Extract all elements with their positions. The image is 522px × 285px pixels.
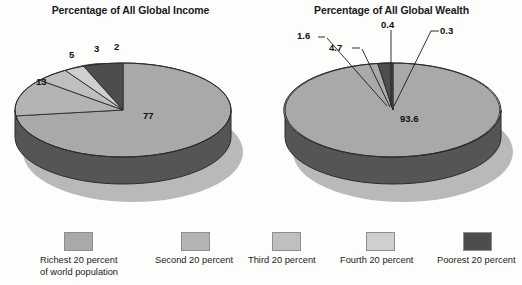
legend: Richest 20 percent of world population S… (0, 226, 522, 285)
legend-swatch-richest (64, 232, 93, 251)
pie-value-wealth-richest: 93.6 (400, 114, 419, 124)
legend-item-richest: Richest 20 percent of world population (40, 226, 170, 278)
pie-value-income-richest: 77 (143, 111, 154, 121)
pie-value-wealth-second: 4.7 (329, 43, 342, 53)
legend-swatch-fourth (366, 232, 395, 251)
chart-panel-income: Percentage of All Global Income (0, 0, 261, 222)
pie-value-income-second: 13 (36, 77, 47, 87)
figure-canvas: Percentage of All Global Income (0, 0, 522, 285)
pie-chart-income (0, 0, 261, 222)
legend-label-poorest: Poorest 20 percent (437, 255, 522, 267)
legend-swatch-second (181, 232, 210, 251)
pie-value-income-third: 5 (69, 50, 74, 60)
legend-swatch-poorest (463, 232, 492, 251)
legend-swatch-third (272, 232, 301, 251)
pie-value-wealth-fourth: 0.4 (381, 20, 394, 30)
chart-panel-wealth: Percentage of All Global Wealth (261, 0, 522, 222)
pie-value-income-poorest: 2 (114, 42, 119, 52)
pie-value-wealth-third: 1.6 (297, 31, 310, 41)
legend-label-richest: Richest 20 percent of world population (40, 255, 170, 278)
pie-value-wealth-poorest: 0.3 (440, 26, 453, 36)
pie-value-income-fourth: 3 (94, 44, 99, 54)
legend-item-poorest: Poorest 20 percent (437, 226, 522, 267)
